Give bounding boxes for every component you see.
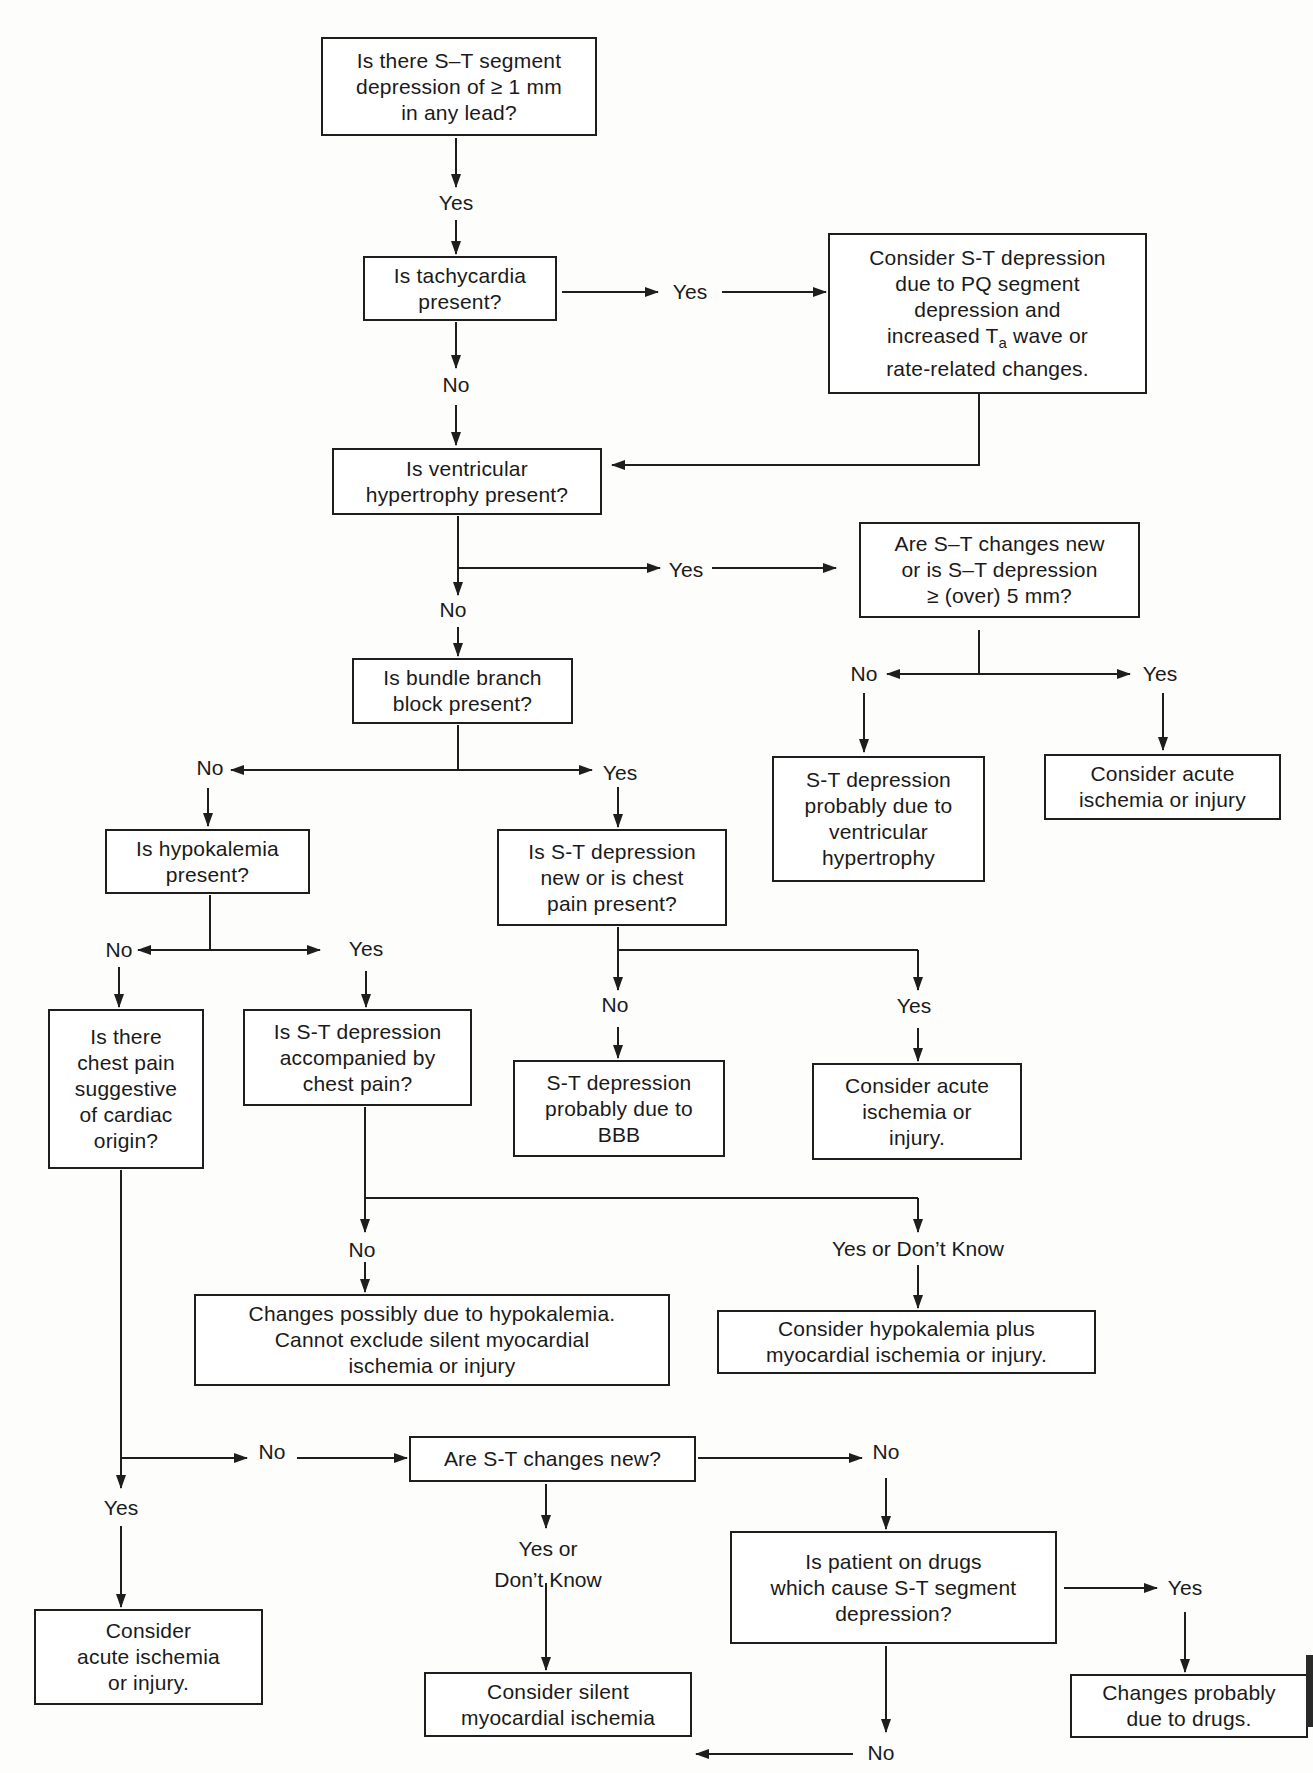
st-accompanied-chest-pain-box: Is S-T depression accompanied by chest p… (243, 1009, 472, 1106)
due-to-drugs-box: Changes probably due to drugs. (1070, 1674, 1308, 1738)
ventricular-hypertrophy-question-box: Is ventricular hypertrophy present? (332, 448, 602, 515)
ta-subscript: a (999, 334, 1008, 351)
label-tachy-yes: Yes (673, 280, 707, 304)
label-bbb-yes: Yes (603, 761, 637, 785)
pq-line4-pre: increased T (887, 324, 999, 347)
label-hypo-yes: Yes (349, 937, 383, 961)
st-changes-new-question-box: Are S-T changes new? (409, 1436, 696, 1482)
acute-ischemia-box-1: Consider acute ischemia or injury (1044, 754, 1281, 820)
label-vh-yes: Yes (669, 558, 703, 582)
pq-depression-line5: rate-related changes. (886, 356, 1089, 382)
label-cardiac-yes: Yes (104, 1496, 138, 1520)
hypokalemia-plus-ischemia-box: Consider hypokalemia plus myocardial isc… (717, 1310, 1096, 1374)
drugs-question-box: Is patient on drugs which cause S-T segm… (730, 1531, 1057, 1644)
label-stnew-yes: Yes or Don’t Know (494, 1533, 601, 1595)
label-tachy-no: No (443, 373, 470, 397)
chest-pain-cardiac-question-box: Is there chest pain suggestive of cardia… (48, 1009, 204, 1169)
hypokalemia-possible-box: Changes possibly due to hypokalemia. Can… (194, 1294, 670, 1386)
bundle-branch-block-question-box: Is bundle branch block present? (352, 658, 573, 724)
pq-depression-box: Consider S-T depression due to PQ segmen… (828, 233, 1147, 394)
label-drugs-yes: Yes (1168, 1576, 1202, 1600)
label-hypo-no: No (106, 938, 133, 962)
label-bbb-no: No (197, 756, 224, 780)
label-vh-no: No (440, 598, 467, 622)
st-changes-new-or-5mm-box: Are S–T changes new or is S–T depression… (859, 522, 1140, 618)
label-new5-yes: Yes (1143, 662, 1177, 686)
pq-line4-post: wave or (1007, 324, 1088, 347)
label-new5-no: No (851, 662, 878, 686)
st-due-to-bbb-box: S-T depression probably due to BBB (513, 1060, 725, 1157)
st-due-to-ventricular-hypertrophy-box: S-T depression probably due to ventricul… (772, 756, 985, 882)
acute-ischemia-box-3: Consider acute ischemia or injury. (34, 1609, 263, 1705)
label-accomp-yes: Yes or Don’t Know (832, 1237, 1004, 1261)
flowchart-canvas: Is there S–T segment depression of ≥ 1 m… (0, 0, 1313, 1773)
label-stnew-no: No (873, 1440, 900, 1464)
acute-ischemia-box-2: Consider acute ischemia or injury. (812, 1063, 1022, 1160)
label-start-yes: Yes (439, 191, 473, 215)
start-question-box: Is there S–T segment depression of ≥ 1 m… (321, 37, 597, 136)
hypokalemia-question-box: Is hypokalemia present? (105, 829, 310, 894)
label-accomp-no: No (349, 1238, 376, 1262)
label-newcp-yes: Yes (897, 994, 931, 1018)
pq-depression-line4: increased Ta wave or (887, 323, 1088, 356)
label-drugs-no: No (868, 1741, 895, 1765)
silent-ischemia-box: Consider silent myocardial ischemia (424, 1672, 692, 1737)
pq-depression-lines: Consider S-T depression due to PQ segmen… (869, 245, 1106, 323)
tachycardia-question-box: Is tachycardia present? (363, 256, 557, 321)
label-cardiac-no: No (259, 1440, 286, 1464)
label-newcp-no: No (602, 993, 629, 1017)
page-edge-shadow (1306, 1655, 1313, 1727)
st-new-or-chest-pain-box: Is S-T depression new or is chest pain p… (497, 829, 727, 926)
